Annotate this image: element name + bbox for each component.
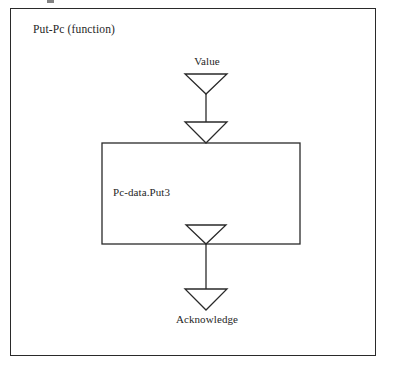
- acknowledge-arrow-upper-icon: [186, 225, 226, 244]
- signal-label-acknowledge: Acknowledge: [158, 313, 256, 325]
- process-box-label: Pc-data.Put3: [113, 186, 170, 198]
- dataflow-diagram-canvas: Value Acknowledge Pc-data.Put3: [0, 0, 408, 386]
- acknowledge-arrow-lower-icon: [185, 289, 227, 310]
- value-arrow-upper-icon: [185, 74, 227, 94]
- value-arrow-lower-icon: [185, 122, 227, 143]
- signal-label-value: Value: [182, 55, 232, 67]
